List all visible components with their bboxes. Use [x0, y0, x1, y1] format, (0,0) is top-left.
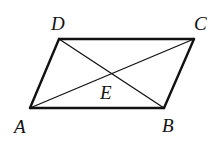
label-E: E: [99, 82, 112, 103]
label-D: D: [50, 13, 65, 34]
label-B: B: [162, 115, 174, 136]
label-A: A: [12, 116, 26, 137]
label-C: C: [194, 13, 207, 34]
parallelogram-diagram: ABCDE: [0, 0, 221, 150]
